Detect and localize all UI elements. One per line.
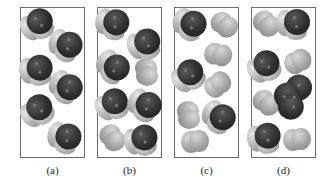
panel-label-d: (d) xyxy=(251,164,316,176)
diatomic-molecule xyxy=(283,128,311,152)
panel-label-a: (a) xyxy=(20,164,85,176)
diatomic-molecule xyxy=(181,130,209,154)
panel-label-b: (b) xyxy=(97,164,162,176)
dark-molecule xyxy=(247,119,284,156)
dark-molecule xyxy=(279,8,311,40)
diatomic-molecule xyxy=(134,58,158,86)
panel-label-c: (c) xyxy=(174,164,239,176)
diatomic-molecule xyxy=(176,101,200,129)
